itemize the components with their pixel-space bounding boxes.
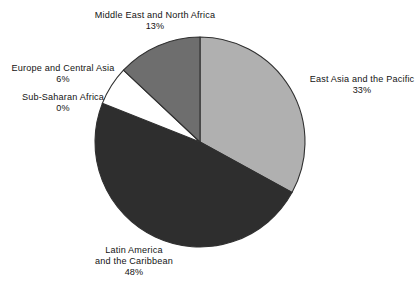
pie-label-value: 13% — [88, 21, 222, 32]
pie-label-text-line2: and the Caribbean — [58, 256, 210, 267]
pie-label-middle-east-and-north-africa: Middle East and North Africa 13% — [88, 10, 222, 32]
pie-chart: Middle East and North Africa 13% Europe … — [0, 0, 416, 288]
pie-label-east-asia-and-the-pacific: East Asia and the Pacific 33% — [308, 74, 416, 96]
pie-label-text: Middle East and North Africa — [88, 10, 222, 21]
pie-label-text: Europe and Central Asia — [4, 63, 122, 74]
pie-label-text: Sub-Saharan Africa — [6, 92, 120, 103]
pie-label-value: 33% — [308, 85, 416, 96]
pie-label-text: East Asia and the Pacific — [308, 74, 416, 85]
pie-label-text: Latin America — [58, 245, 210, 256]
pie-label-latin-america-and-the-caribbean: Latin America and the Caribbean 48% — [58, 245, 210, 279]
pie-label-value: 0% — [6, 103, 120, 114]
pie-label-sub-saharan-africa: Sub-Saharan Africa 0% — [6, 92, 120, 114]
pie-label-europe-and-central-asia: Europe and Central Asia 6% — [4, 63, 122, 85]
pie-label-value: 6% — [4, 74, 122, 85]
pie-label-value: 48% — [58, 267, 210, 278]
